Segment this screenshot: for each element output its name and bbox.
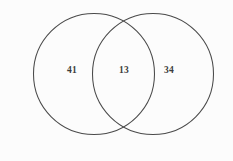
venn-label-right-only: 34 [164, 66, 174, 76]
venn-circles-canvas [0, 0, 233, 161]
venn-label-left-only: 41 [67, 66, 77, 76]
venn-label-intersection: 13 [119, 66, 129, 76]
venn-circle-left [34, 14, 155, 135]
venn-circle-right [93, 14, 214, 135]
venn-diagram-figure: 41 13 34 [0, 0, 233, 161]
